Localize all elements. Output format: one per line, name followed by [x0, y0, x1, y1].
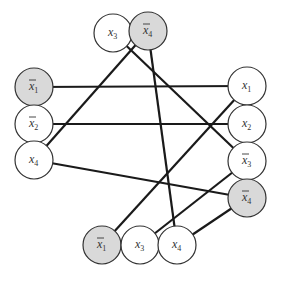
edges-layer: [34, 31, 247, 245]
node-left-x4: x4: [15, 141, 53, 179]
edge-top-x4bar-bottom-x4: [148, 31, 177, 245]
node-left-x1bar: x1: [15, 68, 53, 106]
node-right-x1: x1: [228, 67, 266, 105]
edge-top-x3-right-x3bar: [113, 33, 247, 161]
node-left-x2bar: x2: [15, 105, 53, 143]
node-top-x3: x3: [94, 14, 132, 52]
node-bottom-x1bar: x1: [83, 226, 121, 264]
node-bottom-x4: x4: [158, 226, 196, 264]
edge-left-x4-right-x4bar: [34, 160, 247, 198]
node-right-x3bar: x3: [228, 142, 266, 180]
graph-diagram: x3x4x1x2x4x1x2x3x4x1x3x4: [0, 0, 282, 281]
edge-left-x1bar-right-x1: [34, 86, 247, 87]
graph-canvas: x3x4x1x2x4x1x2x3x4x1x3x4: [0, 0, 282, 281]
node-right-x2: x2: [228, 105, 266, 143]
node-right-x4bar: x4: [228, 179, 266, 217]
node-top-x4bar: x4: [129, 12, 167, 50]
node-bottom-x3: x3: [121, 226, 159, 264]
